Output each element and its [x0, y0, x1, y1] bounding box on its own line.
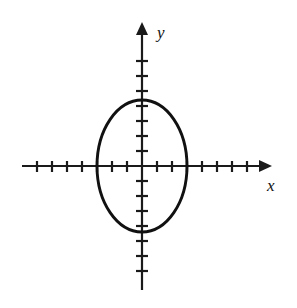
graph-figure: y x: [0, 0, 297, 308]
y-axis-label: y: [155, 23, 165, 42]
y-axis-arrowhead: [136, 22, 148, 35]
coordinate-plane-svg: y x: [0, 0, 297, 308]
x-axis-arrowhead: [259, 160, 272, 172]
x-axis-label: x: [266, 176, 275, 195]
